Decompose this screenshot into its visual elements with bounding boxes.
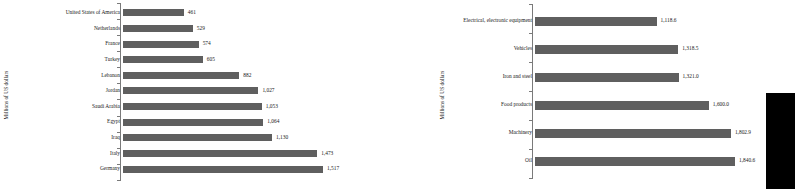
bar-track: 1,840.6 xyxy=(535,157,760,166)
bar-rows-left: United States of America461Netherlands52… xyxy=(28,5,400,177)
bar-track: 461 xyxy=(123,9,400,16)
bar-track: 605 xyxy=(123,56,400,63)
bar-chart-left: Millions of US dollars United States of … xyxy=(0,0,400,189)
black-overlay-block xyxy=(766,93,795,189)
category-label: Jordan xyxy=(28,88,123,93)
category-label: Electrical, electronic equipment xyxy=(440,18,535,23)
category-label: Vehicles xyxy=(440,46,535,51)
bar-value-label: 529 xyxy=(197,26,205,31)
bar-row: Vehicles1,318.5 xyxy=(440,45,760,54)
bar-row: Netherlands529 xyxy=(28,25,400,32)
category-label: Iraq xyxy=(28,135,123,140)
bar-row: Iron and steel1,321.0 xyxy=(440,73,760,82)
category-label: Netherlands xyxy=(28,26,123,31)
bar-row: Lebanon882 xyxy=(28,72,400,79)
bar xyxy=(123,103,262,110)
bar-chart-right: Millions of US dollars Electrical, elect… xyxy=(400,0,760,189)
bar xyxy=(535,101,709,110)
category-label: Saudi Arabia xyxy=(28,104,123,109)
bar-rows-right: Electrical, electronic equipment1,118.6V… xyxy=(440,7,760,175)
bar-value-label: 1,064 xyxy=(267,119,279,124)
bar-track: 1,318.5 xyxy=(535,45,760,54)
bar-row: Turkey605 xyxy=(28,56,400,63)
bar-track: 1,321.0 xyxy=(535,73,760,82)
bar xyxy=(123,134,272,141)
bar-value-label: 574 xyxy=(203,41,211,46)
bar-value-label: 1,600.0 xyxy=(713,102,729,107)
bar xyxy=(123,150,317,157)
bar-value-label: 1,517 xyxy=(327,166,339,171)
plot-area-left: United States of America461Netherlands52… xyxy=(28,0,400,189)
bar xyxy=(123,72,239,79)
plot-area-right: Electrical, electronic equipment1,118.6V… xyxy=(440,0,760,189)
bar-track: 1,027 xyxy=(123,87,400,94)
category-label: Turkey xyxy=(28,57,123,62)
bar xyxy=(123,25,193,32)
bar-value-label: 1,118.6 xyxy=(661,18,677,23)
bar-value-label: 1,318.5 xyxy=(682,46,698,51)
bar-row: Italy1,473 xyxy=(28,150,400,157)
bar-track: 1,118.6 xyxy=(535,17,760,26)
bar-track: 1,802.9 xyxy=(535,129,760,138)
bar-track: 1,473 xyxy=(123,150,400,157)
bar-value-label: 1,130 xyxy=(276,135,288,140)
bar-row: Oil1,840.6 xyxy=(440,157,760,166)
category-label: Food products xyxy=(440,102,535,107)
category-label: Lebanon xyxy=(28,73,123,78)
category-label: Italy xyxy=(28,151,123,156)
bar xyxy=(535,17,657,26)
bar-value-label: 1,473 xyxy=(321,151,333,156)
category-label: Egypt xyxy=(28,119,123,124)
bar xyxy=(123,119,263,126)
bar-row: Egypt1,064 xyxy=(28,119,400,126)
bar-track: 1,517 xyxy=(123,166,400,173)
bar-track: 1,130 xyxy=(123,134,400,141)
bar xyxy=(535,73,679,82)
bar-value-label: 1,027 xyxy=(262,88,274,93)
bar-row: United States of America461 xyxy=(28,9,400,16)
category-label: Oil xyxy=(440,158,535,163)
bar-value-label: 461 xyxy=(188,10,196,15)
bar xyxy=(535,129,731,138)
bar-row: France574 xyxy=(28,41,400,48)
bar-track: 1,053 xyxy=(123,103,400,110)
bar xyxy=(123,56,203,63)
bar-value-label: 1,840.6 xyxy=(739,158,755,163)
bar-row: Saudi Arabia1,053 xyxy=(28,103,400,110)
category-label: United States of America xyxy=(28,10,123,15)
bar xyxy=(123,9,184,16)
category-label: Iron and steel xyxy=(440,74,535,79)
bar-value-label: 882 xyxy=(243,73,251,78)
category-label: Germany xyxy=(28,166,123,171)
bar-row: Germany1,517 xyxy=(28,166,400,173)
category-label: Machinery xyxy=(440,130,535,135)
bar-value-label: 1,802.9 xyxy=(735,130,751,135)
bar xyxy=(123,87,258,94)
bar-value-label: 605 xyxy=(207,57,215,62)
bar-row: Machinery1,802.9 xyxy=(440,129,760,138)
bar xyxy=(535,45,678,54)
bar-row: Jordan1,027 xyxy=(28,87,400,94)
category-label: France xyxy=(28,41,123,46)
bar-track: 882 xyxy=(123,72,400,79)
bar-track: 1,600.0 xyxy=(535,101,760,110)
bar-row: Electrical, electronic equipment1,118.6 xyxy=(440,17,760,26)
bar xyxy=(123,166,323,173)
bar-track: 574 xyxy=(123,41,400,48)
bar xyxy=(123,41,199,48)
bar-value-label: 1,321.0 xyxy=(683,74,699,79)
bar xyxy=(535,157,735,166)
y-axis-title-left: Millions of US dollars xyxy=(3,61,9,129)
bar-row: Iraq1,130 xyxy=(28,134,400,141)
bar-value-label: 1,053 xyxy=(266,104,278,109)
bar-track: 1,064 xyxy=(123,119,400,126)
bar-row: Food products1,600.0 xyxy=(440,101,760,110)
bar-track: 529 xyxy=(123,25,400,32)
